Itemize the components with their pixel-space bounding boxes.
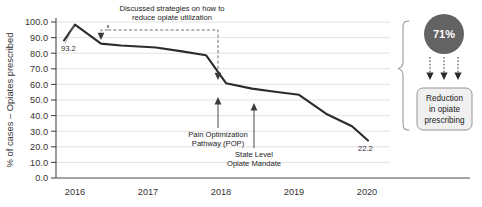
chart-background xyxy=(0,0,482,207)
y-tick-label: 20.0 xyxy=(30,142,48,152)
data-label-value: 93.2 xyxy=(61,44,76,53)
callout-box-line1: Reduction xyxy=(426,94,463,103)
y-tick-label: 100.0 xyxy=(25,17,48,27)
x-tick-label: 2016 xyxy=(65,187,85,197)
x-tick-label: 2020 xyxy=(357,187,377,197)
annotation-text-line2: Pathway (POP) xyxy=(192,139,245,148)
callout-box-line2: in opiate xyxy=(429,105,460,114)
x-tick-label: 2019 xyxy=(284,187,304,197)
y-tick-label: 0.0 xyxy=(35,173,48,183)
y-tick-label: 90.0 xyxy=(30,33,48,43)
annotation-text-line2: Opiate Mandate xyxy=(227,159,281,168)
y-tick-label: 30.0 xyxy=(30,127,48,137)
opiate-prescribing-line-chart: 100.0 90.0 80.0 70.0 60.0 50.0 40.0 30.0… xyxy=(0,0,482,207)
percent-value: 71% xyxy=(433,28,455,40)
annotation-text-line1: Pain Optimization xyxy=(188,130,248,139)
y-tick-label: 80.0 xyxy=(30,49,48,59)
data-label-end: 22.2 xyxy=(358,144,373,153)
y-tick-label: 40.0 xyxy=(30,111,48,121)
annotation-text-line2: reduce opiate utilization xyxy=(132,13,212,22)
y-tick-label: 10.0 xyxy=(30,158,48,168)
callout-box-line3: prescribing xyxy=(424,116,464,125)
annotation-text-line1: Discussed strategies on how to xyxy=(119,4,224,13)
y-tick-label: 60.0 xyxy=(30,80,48,90)
y-tick-label: 70.0 xyxy=(30,64,48,74)
x-tick-label: 2017 xyxy=(138,187,158,197)
x-tick-label: 2018 xyxy=(211,187,231,197)
annotation-text-line1: State Level xyxy=(235,150,273,159)
y-tick-label: 50.0 xyxy=(30,95,48,105)
y-axis-title: % of cases – Opiates prescribed xyxy=(4,33,15,168)
